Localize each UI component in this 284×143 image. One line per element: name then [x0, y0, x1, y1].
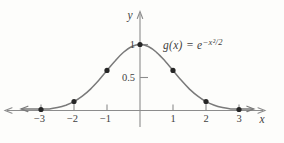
- y-axis-label: y: [126, 9, 133, 22]
- function-label: g(x) = e−x²/2: [163, 37, 223, 53]
- data-point-dot: [137, 42, 142, 47]
- x-tick-label: −2: [67, 113, 78, 124]
- data-point-dot: [38, 107, 43, 112]
- data-point-dot: [203, 99, 208, 104]
- data-point-dot: [170, 68, 175, 73]
- gaussian-curve-path: [22, 45, 253, 109]
- gaussian-curve-figure: −3−2−11230.51 y x g(x) = e−x²/2: [0, 0, 284, 143]
- y-tick-label: 0.5: [122, 72, 135, 83]
- x-tick-label: 3: [236, 113, 241, 124]
- x-tick-label: −3: [34, 113, 45, 124]
- x-axis-label: x: [258, 113, 265, 125]
- x-tick-label: 1: [170, 113, 175, 124]
- figure-canvas: −3−2−11230.51 y x g(x) = e−x²/2: [0, 0, 284, 143]
- function-label-exponent: −x²/2: [203, 37, 224, 47]
- function-curve: [21, 45, 254, 112]
- data-point-dot: [104, 68, 109, 73]
- data-point-dot: [236, 107, 241, 112]
- function-label-base: g(x) = e: [163, 39, 203, 52]
- x-tick-label: 2: [203, 113, 208, 124]
- data-point-dot: [71, 99, 76, 104]
- y-tick-label: 1: [130, 39, 135, 50]
- x-tick-label: −1: [100, 113, 111, 124]
